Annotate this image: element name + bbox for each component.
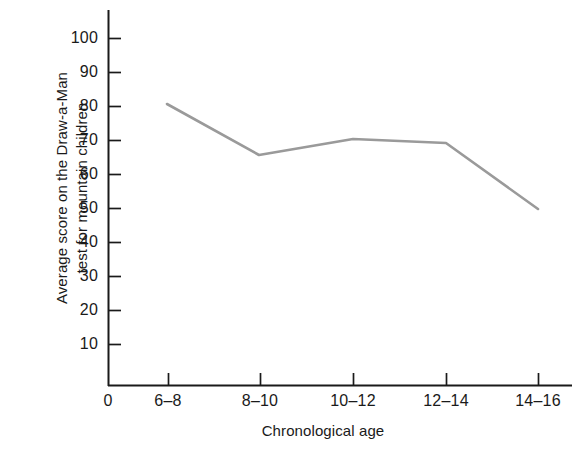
x-axis-title: Chronological age <box>108 422 538 439</box>
plot-area <box>0 0 572 450</box>
data-series-mountain-children <box>167 104 538 209</box>
x-axis-ticks <box>169 373 539 385</box>
chart-figure: Average score on the Draw-a-Man test for… <box>0 0 572 450</box>
y-axis-ticks <box>109 39 121 345</box>
